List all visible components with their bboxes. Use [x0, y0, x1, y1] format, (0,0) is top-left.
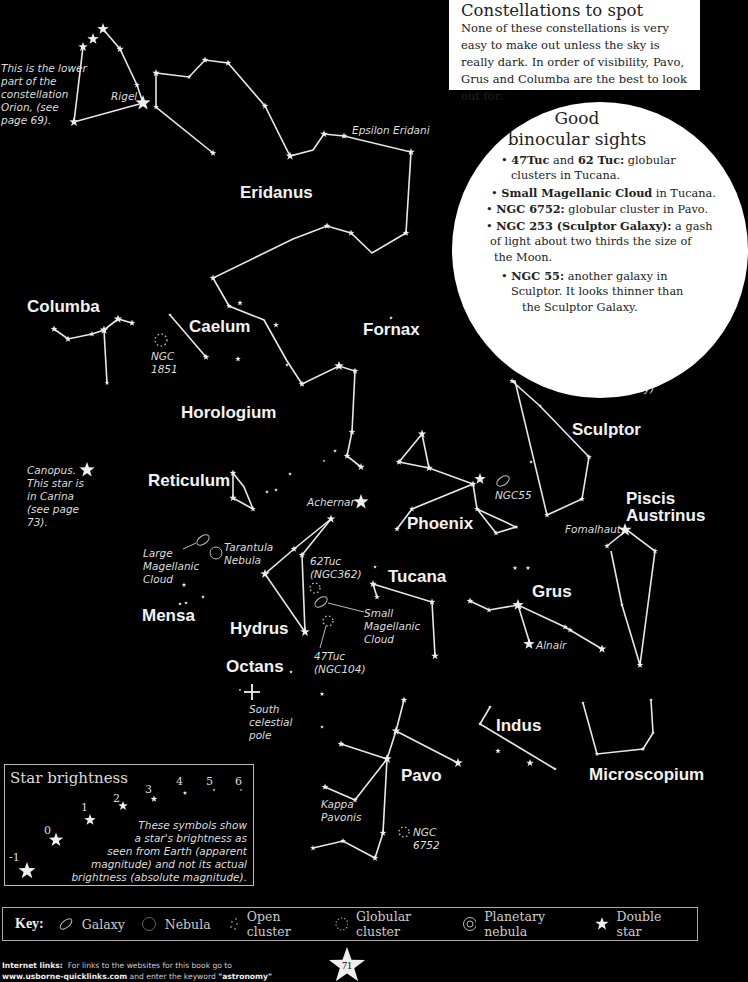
note-fomalhaut: Fomalhaut: [565, 523, 621, 536]
binocular-item-5-cont2: the Sculptor Galaxy.: [522, 300, 638, 317]
label-indus: Indus: [496, 716, 541, 736]
label-caelum: Caelum: [189, 317, 250, 337]
mag-label: 1: [81, 801, 88, 814]
binocular-sights-panel: Goodbinocular sights • 47Tuc and 62 Tuc:…: [452, 102, 748, 398]
mag-label: -1: [9, 851, 20, 864]
star-brightness-box: Star brightness These symbols show a sta…: [4, 764, 254, 886]
open-cluster-icon: [227, 916, 239, 932]
label-microscopium: Microscopium: [589, 765, 704, 785]
label-mensa: Mensa: [142, 606, 195, 626]
binocular-item-5-cont: Sculptor. It looks thinner than: [511, 284, 683, 301]
note-ngc6752: NGC 6752: [413, 826, 440, 852]
key-item-planetary-nebula: Planetary nebula: [462, 909, 578, 939]
key-item-double-star: Double star: [595, 909, 681, 939]
double-star-icon: [595, 916, 609, 932]
label-horologium: Horologium: [181, 403, 276, 423]
globular-cluster-icon: [334, 916, 348, 932]
mag-label: 5: [206, 775, 213, 788]
note-orion: This is the lower part of the constellat…: [1, 62, 87, 127]
quicklinks-url[interactable]: www.usborne-quicklinks.com: [2, 972, 127, 981]
mag-label: 4: [176, 775, 183, 788]
binocular-item-4-cont2: the Moon.: [494, 250, 552, 267]
label-eridanus: Eridanus: [240, 183, 313, 203]
note-alnair: Alnair: [536, 639, 566, 652]
label-grus: Grus: [532, 582, 572, 602]
binocular-item-1-cont: clusters in Tucana.: [511, 168, 620, 185]
note-47tuc: 47Tuc (NGC104): [314, 650, 366, 676]
key-item-globular-cluster: Globular cluster: [334, 909, 446, 939]
note-ngc1851: NGC 1851: [151, 350, 178, 376]
nebula-icon: [141, 916, 157, 932]
label-phoenix: Phoenix: [407, 514, 473, 534]
galaxy-icon: [58, 917, 74, 931]
mag-label: 3: [145, 783, 152, 796]
info-box-constellations: Constellations to spot None of these con…: [449, 0, 700, 90]
label-fornax: Fornax: [363, 320, 420, 340]
note-south-celestial-pole: South celestial pole: [249, 703, 292, 742]
binocular-item-4: • NGC 253 (Sculptor Galaxy): a gash: [486, 218, 712, 236]
page-number: 71: [327, 960, 367, 971]
note-achernar: Achernar: [307, 496, 355, 509]
note-lmc: Large Magellanic Cloud: [143, 547, 199, 586]
label-sculptor: Sculptor: [572, 420, 641, 440]
label-austrinus: Austrinus: [626, 507, 705, 524]
binocular-item-4-cont: of light about two thirds the size of: [490, 234, 691, 251]
mag-label: 2: [113, 792, 120, 805]
note-kappa-pavonis: Kappa Pavonis: [321, 798, 361, 824]
binocular-item-1: • 47Tuc and 62 Tuc: globular: [501, 152, 676, 170]
south-celestial-pole-icon: [244, 684, 260, 700]
mag-label: 0: [44, 824, 51, 837]
note-canopus: Canopus. This star is in Carina (see pag…: [27, 464, 84, 529]
binocular-item-3: • NGC 6752: globular cluster in Pavo.: [486, 201, 708, 219]
label-tucana: Tucana: [388, 567, 446, 587]
note-smc: Small Magellanic Cloud: [364, 607, 420, 646]
star-brightness-title: Star brightness: [10, 769, 128, 787]
key-item-open-cluster: Open cluster: [227, 909, 318, 939]
binocular-title: Goodbinocular sights: [452, 108, 702, 150]
note-rigel: Rigel: [111, 90, 137, 103]
info-box-body: None of these constellations is very eas…: [461, 20, 692, 105]
key-item-nebula: Nebula: [141, 916, 211, 932]
mag-label: 6: [235, 775, 242, 788]
note-ngc55: NGC55: [495, 489, 532, 502]
key-label: Key:: [15, 916, 44, 932]
binocular-item-5: • NGC 55: another galaxy in: [501, 268, 668, 286]
key-item-galaxy: Galaxy: [58, 917, 125, 932]
label-pavo: Pavo: [401, 766, 442, 786]
note-62tuc: 62Tuc (NGC362): [310, 555, 362, 581]
page-number-badge: 71: [327, 946, 367, 982]
label-reticulum: Reticulum: [148, 471, 230, 491]
label-hydrus: Hydrus: [230, 619, 289, 639]
note-tarantula: Tarantula Nebula: [224, 541, 273, 567]
label-piscis: Piscis: [626, 490, 675, 507]
key-legend: Key: Galaxy Nebula Open cluster Globular…: [2, 907, 698, 941]
label-columba: Columba: [27, 297, 100, 317]
planetary-nebula-icon: [462, 916, 476, 932]
info-box-title: Constellations to spot: [461, 1, 692, 20]
binocular-item-2: • Small Magellanic Cloud in Tucana.: [491, 185, 716, 203]
star-brightness-description: These symbols show a star's brightness a…: [71, 819, 247, 884]
note-epsilon-eridani: Epsilon Eridani: [352, 124, 430, 137]
internet-links-footer: Internet links: For links to the website…: [2, 960, 272, 982]
label-octans: Octans: [226, 657, 284, 677]
